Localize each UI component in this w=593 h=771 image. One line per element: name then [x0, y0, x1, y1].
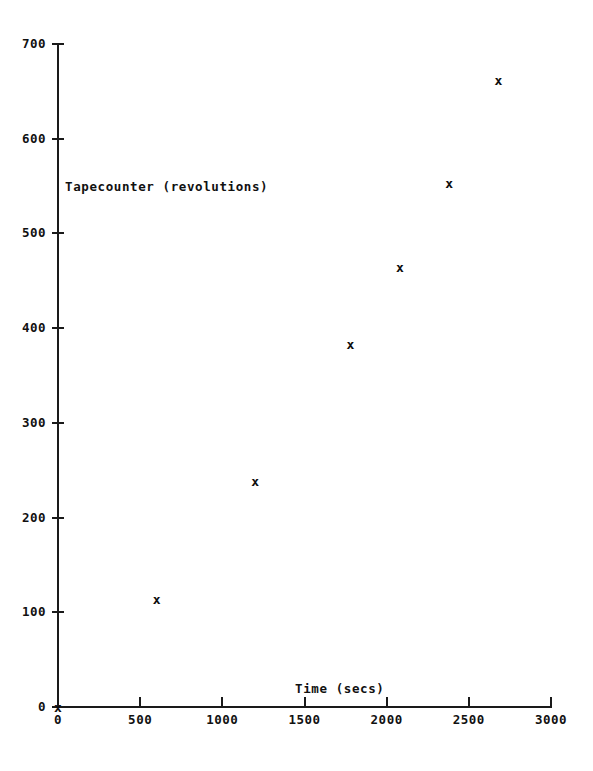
y-tick-label: 100 [0, 606, 46, 619]
scatter-plot-figure: 0100200300400500600700 05001000150020002… [0, 0, 593, 771]
y-tick-label: 400 [0, 322, 46, 335]
y-tick-mark [52, 232, 64, 234]
data-point-marker: x [249, 475, 262, 488]
y-tick-mark [52, 138, 64, 140]
y-tick-mark [52, 611, 64, 613]
x-tick-mark [550, 697, 552, 708]
x-axis-title: Time (secs) [295, 683, 384, 696]
data-point-marker: x [393, 261, 406, 274]
y-tick-label: 500 [0, 227, 46, 240]
y-tick-mark [52, 422, 64, 424]
data-point-marker: x [492, 74, 505, 87]
data-point-marker: x [344, 338, 357, 351]
x-tick-label: 2000 [352, 714, 422, 727]
x-tick-mark [139, 697, 141, 708]
x-tick-label: 500 [105, 714, 175, 727]
x-tick-label: 1500 [270, 714, 340, 727]
y-tick-mark [52, 43, 64, 45]
y-tick-mark [52, 517, 64, 519]
y-tick-mark [52, 327, 64, 329]
x-tick-label: 3000 [516, 714, 586, 727]
x-tick-mark [386, 697, 388, 708]
x-tick-label: 0 [23, 714, 93, 727]
x-tick-label: 1000 [187, 714, 257, 727]
x-tick-mark [468, 697, 470, 708]
y-tick-label: 600 [0, 133, 46, 146]
y-axis-title: Tapecounter (revolutions) [65, 181, 268, 194]
x-tick-mark [304, 697, 306, 708]
y-axis-line [57, 44, 59, 708]
x-tick-label: 2500 [434, 714, 504, 727]
data-point-marker: x [52, 701, 65, 714]
data-point-marker: x [150, 593, 163, 606]
y-tick-label: 0 [0, 701, 46, 714]
data-point-marker: x [443, 177, 456, 190]
y-tick-label: 200 [0, 512, 46, 525]
x-tick-mark [221, 697, 223, 708]
y-tick-label: 300 [0, 417, 46, 430]
y-tick-label: 700 [0, 38, 46, 51]
